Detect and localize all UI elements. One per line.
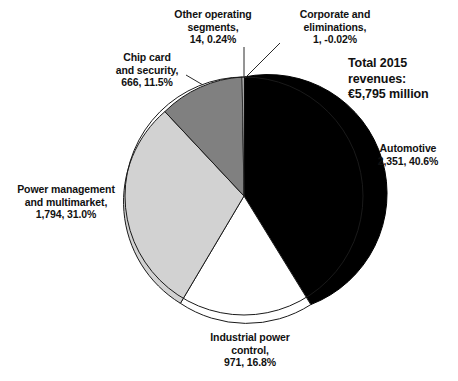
slice-label-power-management-and-multimarket: Power management and multimarket, 1,794,… — [2, 183, 130, 221]
pie-chart: Other operating segments, 14, 0.24% Corp… — [0, 0, 458, 381]
slice-label-other-operating-segments: Other operating segments, 14, 0.24% — [151, 8, 275, 46]
slice-label-industrial-power-control: Industrial power control, 971, 16.8% — [182, 331, 318, 369]
slice-label-corporate-and-eliminations: Corporate and eliminations, 1, -0.02% — [276, 8, 394, 46]
slice-label-chip-card-and-security: Chip card and security, 666, 11.5% — [86, 51, 208, 89]
leader-line-corporate — [245, 43, 280, 78]
total-revenues-annotation: Total 2015 revenues: €5,795 million — [348, 56, 456, 103]
slice-label-automotive: Automotive 2,351, 40.6% — [358, 142, 458, 167]
